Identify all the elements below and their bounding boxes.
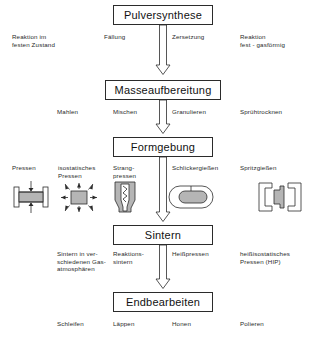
label-row3-left: isostatisches Pressen <box>58 164 113 179</box>
slip-casting-icon <box>172 182 218 212</box>
label-row3-mid: Strang- pressen <box>113 164 157 179</box>
arrow-2 <box>156 100 170 134</box>
extrusion-icon <box>110 180 140 214</box>
label-row5-left: Läppen <box>113 320 163 328</box>
label-row1-far-right: Reaktion fest - gasförmig <box>240 33 310 48</box>
label-row2-right: Granulieren <box>172 108 227 116</box>
label-row4-far-left: Sintern in ver- schiedenen Gas- atmosphä… <box>57 250 115 273</box>
label-row1-far-left: Reaktion im festen Zustand <box>12 33 82 48</box>
stage-label-sintern: Sintern <box>145 229 181 241</box>
label-row3-right: Schlickergießen <box>172 164 234 172</box>
label-row1-right: Zersetzung <box>172 33 232 41</box>
label-row1-left: Fällung <box>104 33 156 41</box>
stage-label-formgebung: Formgebung <box>131 141 195 153</box>
stage-box-formgebung[interactable]: Formgebung <box>113 137 213 157</box>
label-row4-right: Heißpressen <box>172 250 227 258</box>
stage-box-endbearbeiten[interactable]: Endbearbeiten <box>113 292 213 312</box>
label-row2-far-right: Sprühtrocknen <box>240 108 302 116</box>
stage-label-pulversynthese: Pulversynthese <box>124 9 202 21</box>
arrow-1 <box>156 25 170 75</box>
label-row3-far-right: Spritzgießen <box>240 164 300 172</box>
stage-box-sintern[interactable]: Sintern <box>113 225 213 245</box>
arrow-3 <box>156 157 170 222</box>
label-row2-far-left: Mahlen <box>57 108 107 116</box>
label-row3-far-left: Pressen <box>12 164 60 172</box>
stage-box-pulversynthese[interactable]: Pulversynthese <box>113 5 213 25</box>
label-row5-right: Honen <box>172 320 222 328</box>
stage-label-masseaufbereitung: Masseaufbereitung <box>115 84 212 96</box>
process-flowchart: Pulversynthese Masseaufbereitung Formgeb… <box>0 0 311 340</box>
stage-label-endbearbeiten: Endbearbeiten <box>126 296 200 308</box>
label-row5-far-left: Schleifen <box>57 320 107 328</box>
stage-box-masseaufbereitung[interactable]: Masseaufbereitung <box>105 80 221 100</box>
injection-molding-icon <box>256 180 304 214</box>
isostatic-pressing-icon <box>58 180 100 214</box>
uniaxial-pressing-icon <box>8 180 54 214</box>
label-row4-left: Reaktions- sintern <box>113 250 161 265</box>
label-row4-far-right: heißisostatisches Pressen (HIP) <box>240 250 306 265</box>
label-row5-far-right: Polieren <box>240 320 290 328</box>
label-row2-left: Mischen <box>113 108 163 116</box>
